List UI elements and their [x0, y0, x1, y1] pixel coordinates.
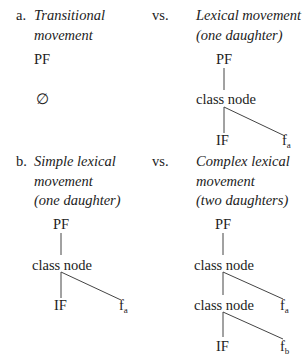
simple-lexical-title-line2: movement [34, 173, 93, 189]
tree-leaf-fa: fa [280, 297, 289, 318]
item-label-b: b. [16, 153, 27, 169]
simple-lexical-title: Simple lexical [34, 153, 116, 169]
vs-label-a: vs. [152, 7, 169, 23]
lexical-subtitle: (one daughter) [196, 27, 283, 43]
empty-set-symbol: ∅ [36, 91, 49, 107]
tree-leaf-if: IF [216, 338, 229, 354]
tree-leaf-if: IF [216, 132, 229, 148]
item-label-a: a. [16, 7, 26, 23]
tree-leaf-fa: fa [282, 132, 291, 153]
tree-node-pf: PF [215, 216, 231, 232]
tree-node-pf: PF [216, 51, 232, 67]
tree-node-class: class node [32, 257, 92, 273]
tree-node-class-2: class node [194, 297, 254, 313]
lexical-title: Lexical movement [196, 7, 301, 23]
simple-lexical-subtitle: (one daughter) [34, 192, 121, 208]
tree-node-pf: PF [34, 51, 50, 67]
tree-leaf-if: IF [54, 297, 67, 313]
tree-node-class-1: class node [194, 257, 254, 273]
tree-node-pf: PF [53, 216, 69, 232]
transitional-title: Transitional [34, 7, 105, 23]
tree-leaf-fb: fb [280, 338, 289, 359]
transitional-title-line2: movement [34, 27, 93, 43]
vs-label-b: vs. [152, 153, 169, 169]
tree-leaf-fa: fa [119, 297, 128, 318]
complex-lexical-subtitle: (two daughters) [196, 192, 288, 208]
complex-lexical-title: Complex lexical [196, 153, 290, 169]
complex-lexical-title-line2: movement [196, 173, 255, 189]
tree-node-class: class node [196, 91, 256, 107]
